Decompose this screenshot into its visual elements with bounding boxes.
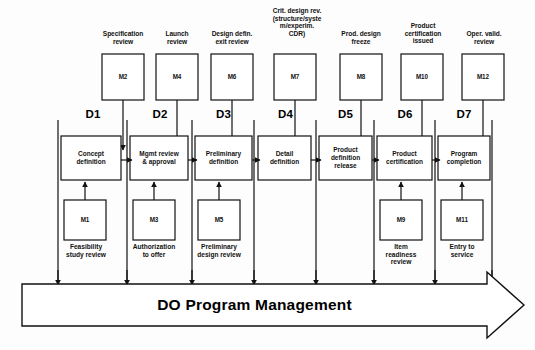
milestone-caption-m7: Crit. design rev. (structure/syste m/exp… bbox=[262, 7, 332, 37]
process-label-3: Preliminary definition bbox=[195, 150, 252, 166]
milestone-id-m7: M7 bbox=[274, 73, 316, 80]
milestone-caption-m1: Feasibility study review bbox=[56, 243, 116, 258]
banner-title: DO Program Management bbox=[22, 296, 487, 314]
milestone-caption-m9: Item readiness review bbox=[373, 243, 429, 266]
milestone-caption-m8: Prod. design freeze bbox=[328, 30, 394, 45]
milestone-id-m4: M4 bbox=[156, 73, 198, 80]
process-label-1: Concept definition bbox=[61, 150, 121, 166]
milestone-id-m12: M12 bbox=[462, 73, 504, 80]
process-label-2: Mgmt review & approval bbox=[129, 150, 189, 166]
milestone-caption-m5: Preliminary design review bbox=[189, 243, 249, 258]
milestone-id-m6: M6 bbox=[211, 73, 253, 80]
phase-label-d4: D4 bbox=[257, 108, 314, 120]
phase-label-d2: D2 bbox=[130, 108, 190, 120]
milestone-id-m3: M3 bbox=[133, 216, 175, 223]
milestone-caption-m11: Entry to service bbox=[434, 243, 490, 258]
milestone-caption-m3: Authorization to offer bbox=[124, 243, 184, 258]
process-label-7: Program completion bbox=[438, 150, 490, 166]
milestone-caption-m6: Design defin. exit review bbox=[198, 30, 266, 45]
milestone-id-m11: M11 bbox=[441, 216, 483, 223]
phase-label-d6: D6 bbox=[377, 108, 433, 120]
process-label-5: Product definition release bbox=[319, 146, 372, 169]
phase-label-d3: D3 bbox=[195, 108, 252, 120]
diagram-canvas: Specification review Launch review Desig… bbox=[0, 0, 535, 350]
phase-label-d1: D1 bbox=[62, 108, 124, 120]
milestone-id-m1: M1 bbox=[64, 216, 106, 223]
process-label-6: Product certification bbox=[377, 150, 432, 166]
milestone-id-m2: M2 bbox=[102, 73, 144, 80]
milestone-caption-m10: Product certification issued bbox=[390, 22, 456, 45]
phase-label-d5: D5 bbox=[318, 108, 373, 120]
milestone-id-m5: M5 bbox=[198, 216, 240, 223]
phase-label-d7: D7 bbox=[437, 108, 491, 120]
milestone-id-m8: M8 bbox=[340, 73, 382, 80]
milestone-caption-m12: Oper. valid. review bbox=[452, 30, 516, 45]
process-label-4: Detail definition bbox=[258, 150, 311, 166]
milestone-id-m9: M9 bbox=[380, 216, 422, 223]
milestone-id-m10: M10 bbox=[401, 73, 443, 80]
